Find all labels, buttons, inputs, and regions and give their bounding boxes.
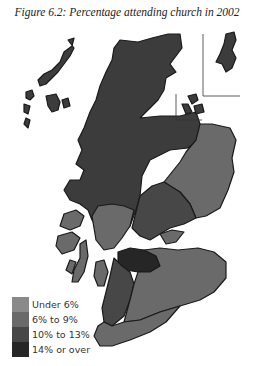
legend-item-6-to-9: 6% to 9%: [12, 312, 90, 327]
map-legend: Under 6% 6% to 9% 10% to 13% 14% or over: [12, 297, 90, 357]
legend-item-under-6: Under 6%: [12, 297, 90, 312]
region-outer-hebrides: [38, 38, 74, 86]
legend-label: 6% to 9%: [32, 314, 78, 325]
region-argyll: [92, 204, 134, 250]
legend-label: 14% or over: [32, 344, 90, 355]
region-orkney: [188, 94, 198, 104]
legend-swatch: [12, 342, 29, 357]
legend-swatch: [12, 312, 29, 327]
legend-swatch: [12, 297, 29, 312]
legend-label: 10% to 13%: [32, 329, 90, 340]
legend-item-10-to-13: 10% to 13%: [12, 327, 90, 342]
region-shetland: [216, 32, 236, 72]
legend-label: Under 6%: [32, 299, 79, 310]
legend-swatch: [12, 327, 29, 342]
legend-item-14-or-over: 14% or over: [12, 342, 90, 357]
